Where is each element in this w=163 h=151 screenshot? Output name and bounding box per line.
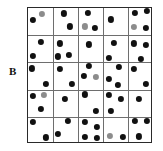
data-point — [80, 73, 86, 79]
data-point — [61, 96, 67, 102]
data-point — [137, 55, 143, 61]
data-point — [29, 65, 35, 71]
data-point — [56, 66, 62, 72]
data-point — [82, 119, 88, 125]
data-point — [43, 81, 49, 87]
data-point — [106, 55, 112, 61]
data-point — [106, 92, 112, 98]
data-point — [115, 82, 121, 88]
data-point — [40, 92, 46, 98]
data-point — [68, 81, 74, 87]
data-point — [39, 11, 45, 17]
data-point — [54, 131, 60, 137]
data-point — [135, 96, 141, 102]
data-point — [91, 24, 97, 30]
data-point — [54, 53, 60, 59]
data-point — [42, 134, 48, 140]
grid-vline — [103, 8, 104, 142]
data-point — [131, 66, 137, 72]
data-point — [119, 134, 125, 140]
data-point — [81, 91, 87, 97]
data-point — [86, 63, 92, 69]
data-point — [115, 64, 121, 70]
grid-vline — [53, 8, 54, 142]
data-point — [143, 81, 149, 87]
data-point — [136, 133, 142, 139]
data-point — [56, 40, 62, 46]
grid-hline — [28, 35, 151, 36]
data-point — [144, 8, 150, 14]
data-point — [111, 40, 117, 46]
data-point — [93, 73, 99, 79]
data-point — [143, 42, 149, 48]
grid-vline — [78, 8, 79, 142]
grid-hline — [28, 90, 151, 91]
grid-vline — [128, 8, 129, 142]
data-point — [106, 133, 112, 139]
data-point — [130, 40, 136, 46]
data-point — [131, 10, 137, 16]
data-point — [93, 108, 99, 114]
data-point — [93, 135, 99, 141]
data-point — [132, 118, 138, 124]
data-point — [105, 76, 111, 82]
data-point — [29, 119, 35, 125]
data-point — [60, 10, 66, 16]
data-point — [108, 108, 114, 114]
data-point — [108, 16, 114, 22]
data-point — [38, 106, 44, 112]
data-point — [30, 17, 36, 23]
data-point — [131, 24, 137, 30]
panel-label-b: B — [9, 66, 16, 77]
data-point — [142, 25, 148, 31]
data-point — [81, 23, 87, 29]
data-point — [84, 10, 90, 16]
data-point — [29, 92, 35, 98]
quadrat-grid — [27, 7, 152, 143]
data-point — [94, 124, 100, 130]
data-point — [65, 118, 71, 124]
data-point — [117, 96, 123, 102]
data-point — [144, 118, 150, 124]
data-point — [86, 41, 92, 47]
data-point — [65, 52, 71, 58]
data-point — [29, 53, 35, 59]
data-point — [81, 134, 87, 140]
data-point — [66, 23, 72, 29]
point-pattern-figure: B — [0, 0, 163, 151]
data-point — [37, 39, 43, 45]
